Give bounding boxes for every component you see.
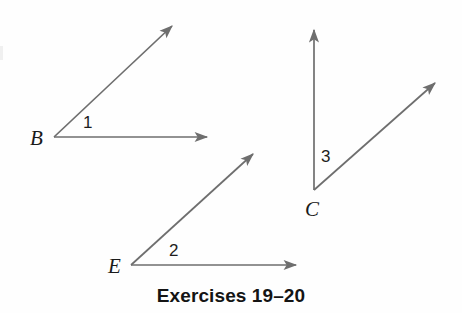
angle-c-rays <box>314 30 435 190</box>
ray-c-diagonal <box>314 83 435 190</box>
ray-b-diagonal <box>54 26 172 137</box>
angle-number-3: 3 <box>321 148 330 165</box>
angle-diagram-canvas <box>0 0 462 313</box>
figure-caption: Exercises 19–20 <box>0 286 462 305</box>
vertex-label-e: E <box>108 256 121 277</box>
angle-number-2: 2 <box>169 242 178 259</box>
angle-e-rays <box>131 154 296 265</box>
ray-e-diagonal <box>131 154 253 265</box>
geometry-figure: B 1 E 2 C 3 Exercises 19–20 <box>0 0 462 313</box>
vertex-label-c: C <box>305 199 319 220</box>
vertex-label-b: B <box>30 128 43 149</box>
angle-b-rays <box>54 26 207 137</box>
angle-number-1: 1 <box>83 114 92 131</box>
